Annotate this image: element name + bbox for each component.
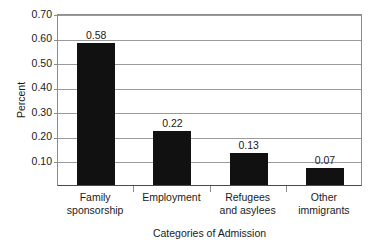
bar: [306, 168, 344, 185]
bar-slot: 0.22: [134, 15, 210, 185]
bar-slot: 0.13: [211, 15, 287, 185]
y-axis-tick-label: 0.70: [18, 9, 52, 20]
x-axis-category-label: Employment: [133, 191, 209, 204]
x-axis-category-label: Otherimmigrants: [286, 191, 362, 216]
y-axis-tick-label: 0.10: [18, 156, 52, 167]
bar-chart: Percent 0.700.600.500.400.300.200.10 0.5…: [0, 0, 377, 250]
x-axis-category-label-line: Other: [286, 191, 362, 204]
bar: [153, 131, 191, 185]
x-axis-category-labels: FamilysponsorshipEmploymentRefugeesand a…: [57, 191, 362, 225]
bar-value-label: 0.22: [134, 117, 210, 129]
x-axis-category-label-line: sponsorship: [57, 204, 133, 217]
y-axis-tick-label: 0.50: [18, 58, 52, 69]
bar-value-label: 0.13: [211, 139, 287, 151]
bar-slot: 0.58: [58, 15, 134, 185]
bar-value-label: 0.58: [58, 29, 134, 41]
bar: [77, 43, 115, 186]
bar-slot: 0.07: [287, 15, 363, 185]
bar: [230, 153, 268, 185]
y-axis-tick-labels: 0.700.600.500.400.300.200.10: [17, 0, 52, 250]
x-axis-category-label: Familysponsorship: [57, 191, 133, 216]
x-axis-category-label-line: Employment: [133, 191, 209, 204]
bar-value-label: 0.07: [287, 154, 363, 166]
x-axis-category-label-line: Refugees: [210, 191, 286, 204]
bars-layer: 0.580.220.130.07: [58, 15, 361, 185]
x-axis-category-label: Refugeesand asylees: [210, 191, 286, 216]
x-axis-category-label-line: Family: [57, 191, 133, 204]
x-axis-title: Categories of Admission: [57, 227, 362, 239]
plot-area: 0.580.220.130.07: [57, 14, 362, 186]
y-axis-tick-label: 0.40: [18, 82, 52, 93]
x-axis-category-label-line: and asylees: [210, 204, 286, 217]
x-axis-category-label-line: immigrants: [286, 204, 362, 217]
y-axis-tick-label: 0.60: [18, 33, 52, 44]
y-axis-tick-label: 0.30: [18, 107, 52, 118]
y-axis-tick-label: 0.20: [18, 131, 52, 142]
